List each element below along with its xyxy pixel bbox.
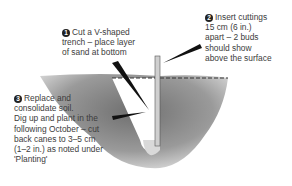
step-2-line: apart – 2 buds — [205, 32, 259, 42]
pointer-2 — [163, 44, 202, 63]
step-1-number-icon: 1 — [62, 29, 70, 37]
step-3-line: back canes to 3–5 cm — [14, 134, 95, 144]
step-2-label: 2Insert cuttings 15 cm (6 in.) apart – 2… — [205, 12, 272, 63]
step-3-label: 3Replace and consolidate soil. Dig up an… — [14, 93, 103, 164]
step-2-number-icon: 2 — [205, 14, 213, 22]
step-2-line: Insert cuttings — [215, 12, 267, 22]
step-3-line: Dig up and plant in the — [14, 113, 98, 123]
step-2-line: should show — [205, 43, 252, 53]
step-2-line: above the surface — [205, 53, 272, 63]
step-3-line: Replace and — [24, 93, 71, 103]
step-1-line: trench – place layer — [62, 37, 135, 47]
step-1-label: 1Cut a V-shaped trench – place layer of … — [62, 27, 135, 58]
step-2-line: 15 cm (6 in.) — [205, 22, 252, 32]
step-1-line: of sand at bottom — [62, 47, 127, 57]
cutting — [155, 56, 160, 146]
step-3-line: following October – cut — [14, 124, 99, 134]
step-3-number-icon: 3 — [14, 95, 22, 103]
step-3-line: (1–2 in.) as noted under — [14, 144, 103, 154]
step-1-line: Cut a V-shaped — [72, 27, 130, 37]
step-3-line: consolidate soil. — [14, 103, 74, 113]
step-3-line: 'Planting' — [14, 154, 47, 164]
